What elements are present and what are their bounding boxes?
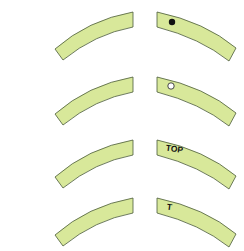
right-arc-segment bbox=[157, 12, 236, 61]
row-1 bbox=[55, 12, 236, 61]
row-3: TOP bbox=[55, 140, 236, 189]
row-2 bbox=[55, 77, 236, 126]
hollow-dot-marker bbox=[168, 83, 174, 89]
left-arc-segment bbox=[55, 198, 133, 246]
left-arc-segment bbox=[55, 77, 133, 125]
row-4: T bbox=[55, 198, 236, 247]
left-arc-segment bbox=[55, 140, 133, 188]
left-arc-segment bbox=[55, 12, 133, 60]
filled-dot-marker bbox=[169, 19, 175, 25]
arc-segments-diagram: TOP T bbox=[0, 0, 244, 251]
